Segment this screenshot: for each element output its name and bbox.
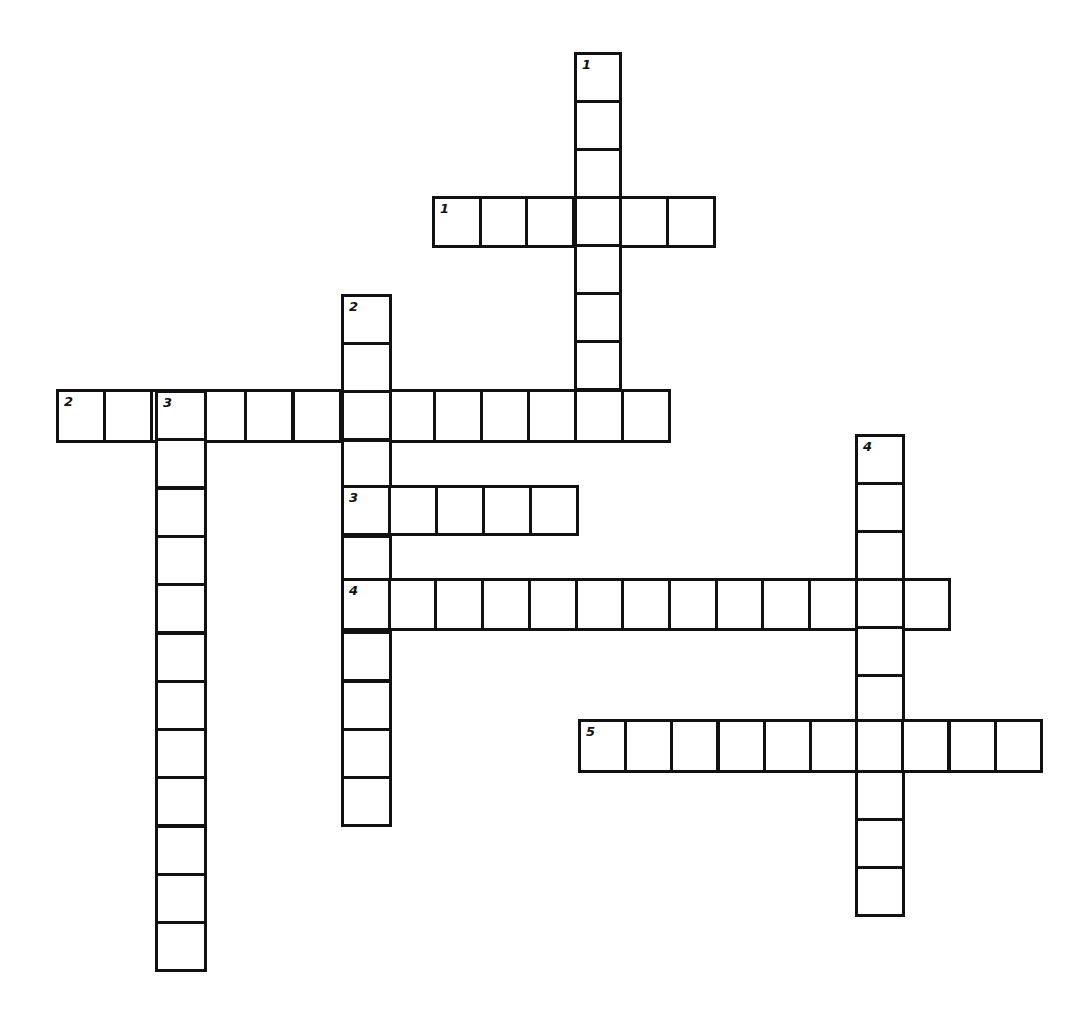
down-2-cell[interactable] — [341, 342, 392, 393]
across-4-cell[interactable] — [715, 578, 765, 631]
down-2-cell[interactable]: 2 — [341, 294, 392, 345]
across-5-cell[interactable] — [670, 719, 719, 773]
down-2-cell[interactable] — [341, 439, 392, 490]
across-4-cell[interactable] — [761, 578, 811, 631]
down-3-cell[interactable]: 3 — [155, 390, 207, 441]
across-2-cell[interactable] — [103, 389, 153, 443]
across-4-cell[interactable]: 4 — [341, 578, 391, 631]
across-2-cell[interactable] — [386, 389, 436, 443]
clue-number: 1 — [582, 57, 591, 72]
across-1-cell[interactable]: 1 — [432, 196, 482, 248]
across-3-cell[interactable] — [529, 485, 579, 536]
down-4-cell[interactable] — [855, 866, 905, 917]
across-3-cell[interactable] — [435, 485, 485, 536]
down-3-cell[interactable] — [155, 873, 207, 924]
down-2-cell[interactable] — [341, 728, 392, 779]
across-5-cell[interactable] — [994, 719, 1043, 773]
across-5-cell[interactable] — [624, 719, 673, 773]
clue-number: 5 — [586, 724, 595, 739]
down-3-cell[interactable] — [155, 535, 207, 586]
down-1-cell[interactable] — [574, 148, 622, 199]
across-2-cell[interactable] — [480, 389, 530, 443]
across-4-cell[interactable] — [481, 578, 531, 631]
down-4-cell[interactable] — [855, 674, 905, 725]
across-3-cell[interactable] — [482, 485, 532, 536]
across-4-cell[interactable] — [808, 578, 858, 631]
down-4-cell[interactable] — [855, 818, 905, 869]
down-3-cell[interactable] — [155, 776, 207, 827]
across-5-cell[interactable] — [809, 719, 858, 773]
across-2-cell[interactable] — [244, 389, 294, 443]
down-4-cell[interactable] — [855, 530, 905, 581]
across-4-cell[interactable] — [668, 578, 718, 631]
across-2-cell[interactable] — [574, 389, 624, 443]
down-4-cell[interactable] — [855, 770, 905, 821]
down-3-cell[interactable] — [155, 438, 207, 489]
down-1-cell[interactable] — [574, 244, 622, 295]
across-2-cell[interactable] — [621, 389, 671, 443]
down-2-cell[interactable] — [341, 631, 392, 682]
clue-number: 1 — [440, 201, 449, 216]
down-3-cell[interactable] — [155, 825, 207, 876]
across-4-cell[interactable] — [388, 578, 438, 631]
clue-number: 3 — [349, 490, 358, 505]
down-3-cell[interactable] — [155, 583, 207, 634]
across-2-cell[interactable] — [433, 389, 483, 443]
down-1-cell[interactable]: 1 — [574, 52, 622, 103]
across-1-cell[interactable] — [619, 196, 669, 248]
down-2-cell[interactable] — [341, 776, 392, 827]
across-4-cell[interactable] — [575, 578, 625, 631]
across-2-cell[interactable]: 2 — [56, 389, 106, 443]
across-3-cell[interactable]: 3 — [341, 485, 391, 536]
across-2-cell[interactable] — [527, 389, 577, 443]
clue-number: 3 — [163, 395, 172, 410]
across-1-cell[interactable] — [525, 196, 575, 248]
clue-number: 4 — [349, 583, 358, 598]
across-4-cell[interactable] — [621, 578, 671, 631]
down-3-cell[interactable] — [155, 632, 207, 683]
down-1-cell[interactable] — [574, 340, 622, 391]
across-5-cell[interactable] — [948, 719, 997, 773]
across-5-cell[interactable] — [763, 719, 812, 773]
down-3-cell[interactable] — [155, 680, 207, 731]
down-4-cell[interactable] — [855, 578, 905, 629]
across-1-cell[interactable] — [666, 196, 716, 248]
down-2-cell[interactable] — [341, 680, 392, 731]
down-1-cell[interactable] — [574, 292, 622, 343]
crossword-grid: 112233445 — [0, 0, 1087, 1010]
down-4-cell[interactable] — [855, 482, 905, 533]
clue-number: 2 — [349, 299, 358, 314]
across-5-cell[interactable]: 5 — [578, 719, 627, 773]
down-1-cell[interactable] — [574, 196, 622, 247]
across-5-cell[interactable] — [717, 719, 766, 773]
across-3-cell[interactable] — [388, 485, 438, 536]
across-2-cell[interactable] — [292, 389, 342, 443]
down-4-cell[interactable]: 4 — [855, 434, 905, 485]
across-5-cell[interactable] — [901, 719, 950, 773]
across-4-cell[interactable] — [901, 578, 951, 631]
down-2-cell[interactable] — [341, 390, 392, 441]
across-4-cell[interactable] — [528, 578, 578, 631]
down-3-cell[interactable] — [155, 921, 207, 972]
down-3-cell[interactable] — [155, 728, 207, 779]
across-5-cell[interactable] — [855, 719, 904, 773]
across-4-cell[interactable] — [434, 578, 484, 631]
down-1-cell[interactable] — [574, 100, 622, 151]
clue-number: 2 — [64, 394, 73, 409]
across-1-cell[interactable] — [479, 196, 529, 248]
down-4-cell[interactable] — [855, 626, 905, 677]
clue-number: 4 — [863, 439, 872, 454]
down-3-cell[interactable] — [155, 487, 207, 538]
